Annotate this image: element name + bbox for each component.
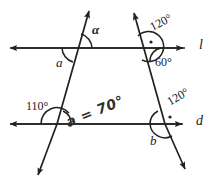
angle-label-top-right-60: 60°	[155, 56, 172, 68]
geometry-diagram: α a 120° 60° 110° 120° b l d a = 70°	[0, 0, 216, 189]
left-transversal-lower	[38, 124, 57, 175]
dot-marker-top-right	[149, 40, 152, 43]
angle-label-bottom-left-110: 110°	[26, 100, 48, 112]
right-transversal-lower	[165, 124, 185, 169]
dot-marker-bottom-right	[168, 115, 171, 118]
arc-bottom-right-120	[150, 111, 158, 124]
arc-top-left-a	[62, 48, 73, 62]
angle-label-top-left-alpha: α	[92, 23, 99, 36]
line-label-l: l	[199, 38, 203, 52]
angle-label-bottom-right-b: b	[150, 134, 157, 147]
angle-label-top-left-a: a	[56, 56, 63, 69]
line-label-d: d	[196, 114, 203, 128]
